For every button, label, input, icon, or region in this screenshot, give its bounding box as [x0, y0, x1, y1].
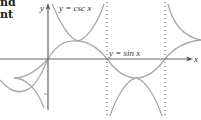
sine-curve	[0, 40, 201, 92]
csc-branch-left	[14, 78, 44, 108]
y-axis-label: y	[40, 3, 44, 13]
csc-branch-right	[168, 4, 201, 40]
sin-curve-label: y = sin x	[109, 48, 140, 58]
csc-sin-graph: nd nt y y = csc x y = sin x x	[0, 0, 201, 120]
x-axis-label: x	[194, 54, 198, 64]
graph-canvas	[0, 0, 201, 120]
csc-branch-negative	[110, 78, 162, 116]
csc-curve-label: y = csc x	[59, 3, 91, 13]
